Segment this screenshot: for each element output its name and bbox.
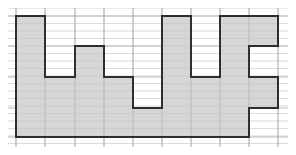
grid-diagram	[0, 0, 296, 155]
